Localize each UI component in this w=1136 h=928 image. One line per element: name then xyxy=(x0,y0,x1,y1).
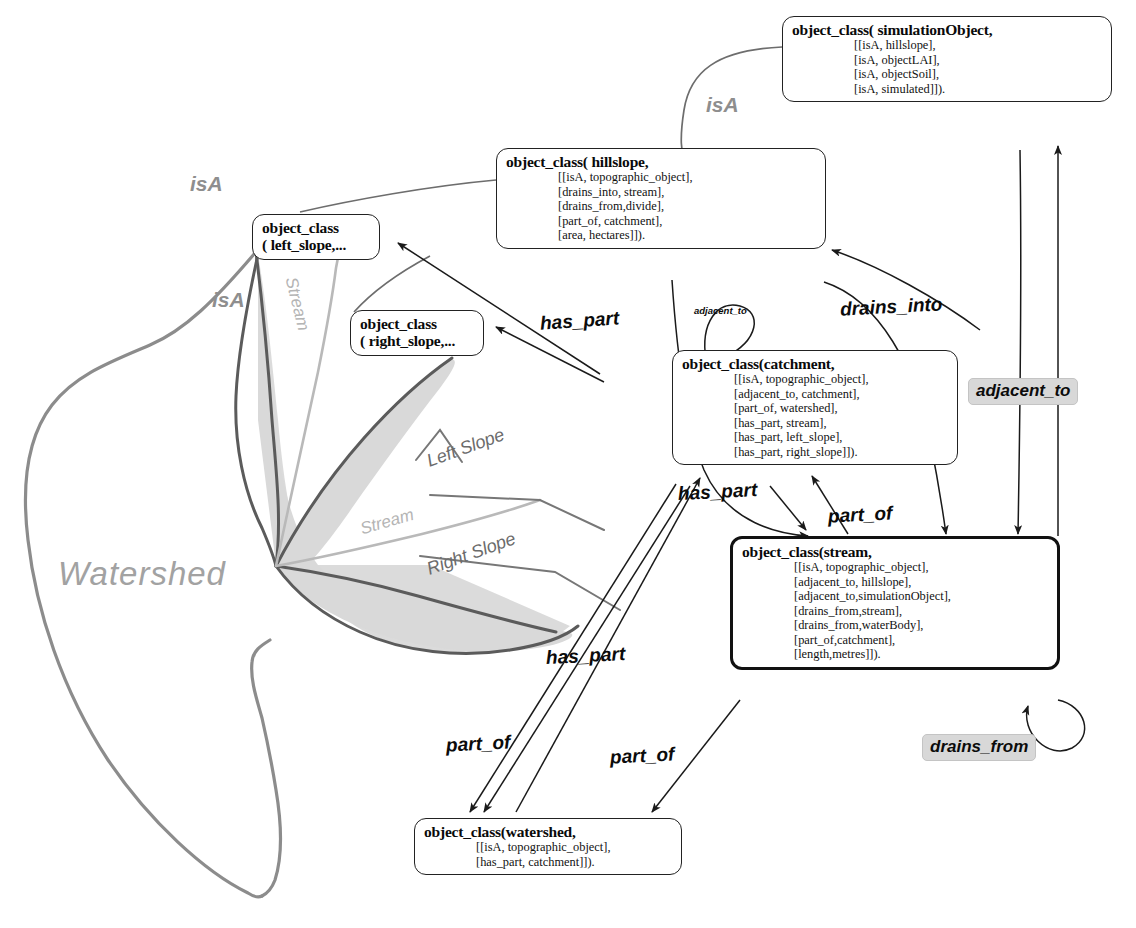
label-adjacent-to-catchment-self: adjacent_to xyxy=(694,305,747,316)
label-has-part-catchment-stream: has_part xyxy=(677,479,757,505)
relation-edges xyxy=(0,0,1136,928)
line: [isA, simulated]]). xyxy=(854,82,1102,97)
node-right-slope-body: ( right_slope,... xyxy=(360,332,474,349)
label-has-part-catchment-leftslope: has_part xyxy=(539,307,620,334)
line: [drains_from,waterBody], xyxy=(794,618,1048,633)
label-part-of-catchment-watershed: part_of xyxy=(445,731,510,756)
map-label-watershed: Watershed xyxy=(58,555,226,593)
node-stream-head: object_class(stream, xyxy=(742,543,1048,560)
line: [[isA, topographic_object], xyxy=(794,560,1048,575)
line: [adjacent_to, hillslope], xyxy=(794,575,1048,590)
label-has-part-watershed-catchment: has_part xyxy=(545,643,625,669)
line: [[isA, topographic_object], xyxy=(476,840,672,855)
line: [length,metres]]). xyxy=(794,647,1048,662)
node-simulation-object-body: [[isA, hillslope], [isA, objectLAI], [is… xyxy=(792,38,1102,96)
node-stream[interactable]: object_class(stream, [[isA, topographic_… xyxy=(730,536,1060,670)
line: [has_part, stream], xyxy=(734,416,948,431)
line: [drains_into, stream], xyxy=(558,185,816,200)
line: [isA, objectSoil], xyxy=(854,67,1102,82)
line: [area, hectares]]). xyxy=(558,228,816,243)
label-part-of-stream-catchment: part_of xyxy=(827,502,892,527)
map-label-left-slope: Left Slope xyxy=(424,424,507,471)
label-drains-into-hillslope-stream: drains_into xyxy=(839,293,942,320)
node-right-slope[interactable]: object_class ( right_slope,... xyxy=(350,310,484,356)
node-catchment-body: [[isA, topographic_object], [adjacent_to… xyxy=(682,372,948,459)
line: [[isA, topographic_object], xyxy=(734,372,948,387)
label-drains-from-stream-self: drains_from xyxy=(922,734,1036,761)
label-isa-simulation-hillslope: isA xyxy=(706,93,739,117)
label-isa-hillslope-leftslope: isA xyxy=(190,172,223,196)
label-isa-hillslope-rightslope: isA xyxy=(212,288,245,312)
line: [has_part, catchment]]). xyxy=(476,855,672,870)
node-catchment[interactable]: object_class(catchment, [[isA, topograph… xyxy=(672,350,958,465)
label-part-of-stream-watershed: part_of xyxy=(609,743,674,768)
line: [isA, objectLAI], xyxy=(854,53,1102,68)
node-left-slope-body: ( left_slope,... xyxy=(262,236,370,253)
node-watershed-head: object_class(watershed, xyxy=(424,823,672,840)
node-hillslope-head: object_class( hillslope, xyxy=(506,153,816,170)
node-hillslope[interactable]: object_class( hillslope, [[isA, topograp… xyxy=(496,148,826,249)
line: [adjacent_to,simulationObject], xyxy=(794,589,1048,604)
node-stream-body: [[isA, topographic_object], [adjacent_to… xyxy=(742,560,1048,662)
line: [has_part, right_slope]]). xyxy=(734,445,948,460)
map-label-right-slope: Right Slope xyxy=(424,528,519,580)
line: [adjacent_to, catchment], xyxy=(734,387,948,402)
node-catchment-head: object_class(catchment, xyxy=(682,355,948,372)
line: [[isA, topographic_object], xyxy=(558,170,816,185)
node-simulation-object[interactable]: object_class( simulationObject, [[isA, h… xyxy=(782,16,1112,102)
diagram-canvas: Watershed Stream Stream Left Slope Right… xyxy=(0,0,1136,928)
line: [part_of, catchment], xyxy=(558,214,816,229)
label-adjacent-to-stream-simulation: adjacent_to xyxy=(968,378,1078,405)
node-watershed-body: [[isA, topographic_object], [has_part, c… xyxy=(424,840,672,869)
node-left-slope[interactable]: object_class ( left_slope,... xyxy=(252,214,380,260)
line: [drains_from,stream], xyxy=(794,604,1048,619)
node-left-slope-head: object_class xyxy=(262,219,370,236)
line: [part_of, watershed], xyxy=(734,401,948,416)
line: [part_of,catchment], xyxy=(794,633,1048,648)
node-watershed[interactable]: object_class(watershed, [[isA, topograph… xyxy=(414,818,682,875)
line: [has_part, left_slope], xyxy=(734,430,948,445)
watershed-illustration xyxy=(0,0,1136,928)
map-label-stream-lower: Stream xyxy=(358,505,416,539)
node-simulation-object-head: object_class( simulationObject, xyxy=(792,21,1102,38)
node-right-slope-head: object_class xyxy=(360,315,474,332)
line: [drains_from,divide], xyxy=(558,199,816,214)
line: [[isA, hillslope], xyxy=(854,38,1102,53)
node-hillslope-body: [[isA, topographic_object], [drains_into… xyxy=(506,170,816,243)
map-label-stream-upper: Stream xyxy=(281,275,314,333)
